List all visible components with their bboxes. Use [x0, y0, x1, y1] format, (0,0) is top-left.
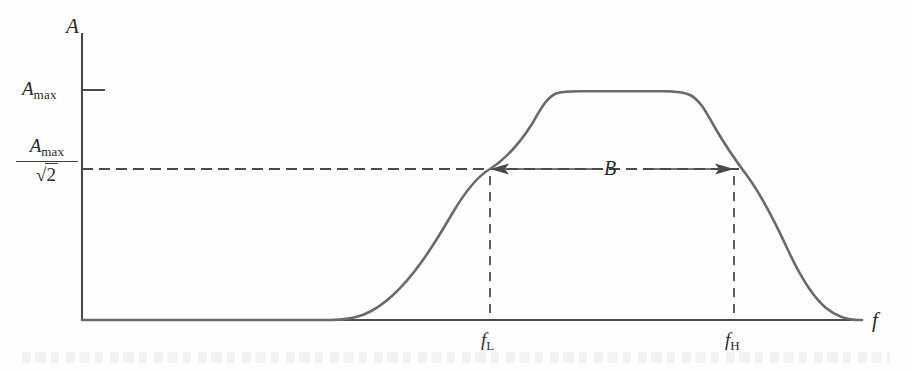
plot-canvas: [0, 0, 912, 371]
ytick-amax-subscript: max: [34, 87, 57, 102]
x-axis-label: f: [872, 310, 878, 331]
xtick-fl-subscript: L: [486, 338, 494, 353]
bandwidth-label: B: [604, 158, 616, 178]
xtick-label-fl: fL: [481, 330, 494, 352]
ytick-amax-base: A: [22, 78, 34, 99]
fraction-numerator-subscript: max: [41, 144, 64, 159]
fraction-denominator: √2: [16, 164, 78, 184]
fraction-bar: [16, 161, 78, 162]
scan-bleedthrough-artifact: [22, 352, 890, 363]
fraction-numerator-base: A: [30, 135, 42, 156]
fraction-numerator: Amax: [16, 136, 78, 160]
xtick-fh-subscript: H: [730, 338, 740, 353]
response-curve: [82, 91, 862, 320]
ytick-label-amax: Amax: [22, 79, 57, 101]
xtick-label-fh: fH: [725, 330, 740, 352]
fraction-radicand: 2: [45, 163, 58, 185]
frequency-response-figure: A f Amax Amax √2 B fL fH: [0, 0, 912, 371]
y-axis-label: A: [66, 16, 79, 37]
ytick-label-half-power: Amax √2: [16, 136, 78, 184]
